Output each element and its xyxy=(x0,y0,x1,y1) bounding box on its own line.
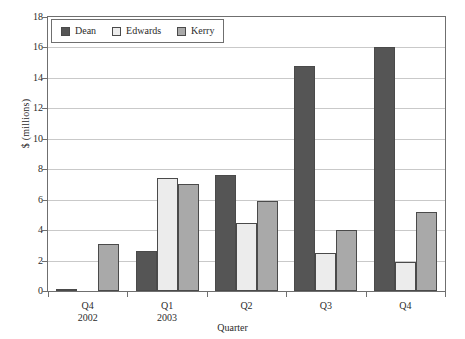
bar-dean-0 xyxy=(56,289,77,291)
x-category-name: Q3 xyxy=(320,300,332,311)
y-tick-label: 4 xyxy=(9,225,43,235)
legend-swatch-icon xyxy=(177,27,186,36)
legend-item-edwards[interactable]: Edwards xyxy=(112,26,161,36)
bars-layer xyxy=(48,17,445,291)
bar-kerry-2 xyxy=(257,201,278,291)
bar-dean-3 xyxy=(294,66,315,291)
x-category-name: Q4 xyxy=(399,300,411,311)
legend-item-kerry[interactable]: Kerry xyxy=(177,26,214,36)
x-category-label: Q12003 xyxy=(127,300,207,324)
x-tick-mark xyxy=(286,292,287,297)
x-category-name: Q4 xyxy=(82,300,94,311)
x-tick-mark xyxy=(127,292,128,297)
y-tick-label: 2 xyxy=(9,256,43,266)
y-tick-label: 12 xyxy=(9,103,43,113)
x-category-label: Q3 xyxy=(286,300,366,312)
y-tick-mark xyxy=(42,108,47,109)
y-tick-mark xyxy=(42,200,47,201)
y-tick-label: 10 xyxy=(9,134,43,144)
x-category-label: Q42002 xyxy=(48,300,128,324)
bar-kerry-3 xyxy=(336,230,357,291)
y-tick-label: 18 xyxy=(9,12,43,22)
x-axis-title: Quarter xyxy=(0,322,465,333)
bar-dean-2 xyxy=(215,175,236,291)
x-tick-mark xyxy=(48,292,49,297)
x-category-name: Q1 xyxy=(161,300,173,311)
y-tick-mark xyxy=(42,47,47,48)
legend-swatch-icon xyxy=(112,27,121,36)
bar-kerry-1 xyxy=(178,184,199,291)
x-tick-mark xyxy=(445,292,446,297)
y-tick-label: 14 xyxy=(9,73,43,83)
y-tick-label: 16 xyxy=(9,42,43,52)
bar-edwards-1 xyxy=(157,178,178,291)
bar-dean-1 xyxy=(136,251,157,291)
x-tick-mark xyxy=(207,292,208,297)
bar-kerry-0 xyxy=(98,244,119,291)
x-category-label: Q2 xyxy=(207,300,287,312)
bar-dean-4 xyxy=(374,47,395,291)
legend-label: Edwards xyxy=(126,26,161,36)
bar-chart: $ (millions) 024681012141618 Q42002Q1200… xyxy=(0,0,465,339)
bar-edwards-2 xyxy=(236,223,257,292)
y-tick-label: 6 xyxy=(9,195,43,205)
y-tick-mark xyxy=(42,230,47,231)
y-tick-label: 8 xyxy=(9,164,43,174)
legend-label: Kerry xyxy=(191,26,214,36)
x-tick-mark xyxy=(366,292,367,297)
bar-kerry-4 xyxy=(416,212,437,291)
legend-swatch-icon xyxy=(61,27,70,36)
y-tick-mark xyxy=(42,139,47,140)
bar-edwards-4 xyxy=(395,262,416,291)
x-category-label: Q4 xyxy=(365,300,445,312)
legend-label: Dean xyxy=(75,26,96,36)
y-tick-mark xyxy=(42,291,47,292)
bar-edwards-3 xyxy=(315,253,336,291)
legend: DeanEdwardsKerry xyxy=(51,19,224,43)
legend-item-dean[interactable]: Dean xyxy=(61,26,96,36)
y-tick-label: 0 xyxy=(9,286,43,296)
y-tick-mark xyxy=(42,169,47,170)
y-tick-mark xyxy=(42,261,47,262)
y-tick-mark xyxy=(42,17,47,18)
x-category-name: Q2 xyxy=(240,300,252,311)
y-tick-mark xyxy=(42,78,47,79)
